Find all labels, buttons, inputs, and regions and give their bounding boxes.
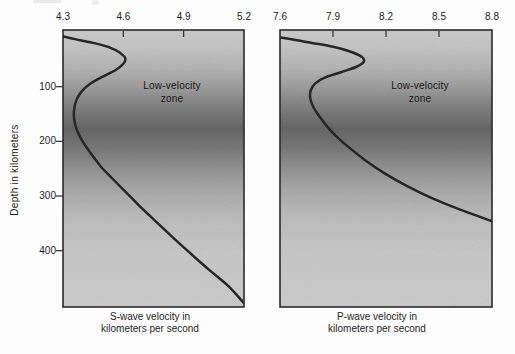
figure-canvas [0,0,515,354]
plot-grain [63,30,244,307]
x-tick-label: 4.3 [46,11,80,23]
y-tick-label: 400 [26,245,56,257]
caption-line: kilometers per second [292,323,462,335]
x-tick-label: 8.5 [422,11,456,23]
x-tick-label: 7.9 [316,11,350,23]
caption-line: P-wave velocity in [292,311,462,323]
y-tick-label: 300 [26,190,56,202]
figure: Depth in kilometers 4.34.64.95.210020030… [0,0,515,354]
low-velocity-zone-label-s: Low-velocity zone [107,79,237,105]
x-tick-label: 7.6 [263,11,297,23]
annotation-line: zone [355,92,485,105]
p-wave-axis-caption: P-wave velocity in kilometers per second [292,311,462,335]
low-velocity-zone-label-p: Low-velocity zone [355,79,485,105]
s-wave-axis-caption: S-wave velocity in kilometers per second [65,311,235,335]
annotation-line: zone [107,92,237,105]
y-tick-label: 200 [26,135,56,147]
annotation-line: Low-velocity [107,79,237,92]
x-tick-label: 5.2 [227,11,261,23]
x-tick-label: 8.8 [475,11,509,23]
caption-line: S-wave velocity in [65,311,235,323]
annotation-line: Low-velocity [355,79,485,92]
x-tick-label: 4.9 [167,11,201,23]
plot-grain [280,30,492,307]
x-tick-label: 8.2 [369,11,403,23]
y-tick-label: 100 [26,81,56,93]
caption-line: kilometers per second [65,323,235,335]
x-tick-label: 4.6 [106,11,140,23]
